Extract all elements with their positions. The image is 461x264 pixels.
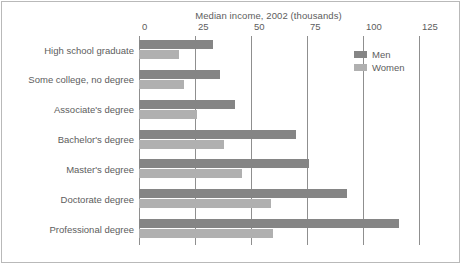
category-label: Bachelor's degree bbox=[0, 134, 134, 145]
legend-swatch-men bbox=[354, 51, 367, 58]
x-tick-label-75: 75 bbox=[307, 21, 321, 32]
gridline-125 bbox=[419, 36, 420, 245]
x-tick-label-0: 0 bbox=[139, 21, 147, 32]
category-axis-labels: High school graduateSome college, no deg… bbox=[0, 36, 134, 245]
legend-swatch-women bbox=[354, 64, 367, 71]
legend-label: Women bbox=[372, 62, 405, 73]
bar-men bbox=[139, 70, 220, 79]
category-label: Professional degree bbox=[0, 224, 134, 235]
legend-label: Men bbox=[372, 49, 390, 60]
bar-women bbox=[139, 229, 273, 238]
legend-item: Women bbox=[354, 61, 405, 74]
bar-women bbox=[139, 140, 224, 149]
category-label: Master's degree bbox=[0, 164, 134, 175]
category-label: High school graduate bbox=[0, 45, 134, 56]
bar-men bbox=[139, 189, 347, 198]
x-tick-label-25: 25 bbox=[195, 21, 209, 32]
category-label: Some college, no degree bbox=[0, 74, 134, 85]
x-tick-label-100: 100 bbox=[363, 21, 382, 32]
category-label: Doctorate degree bbox=[0, 194, 134, 205]
bar-women bbox=[139, 110, 197, 119]
bar-men bbox=[139, 159, 309, 168]
x-tick-label-50: 50 bbox=[251, 21, 265, 32]
bar-women bbox=[139, 80, 184, 89]
gridline-75 bbox=[307, 36, 308, 245]
bar-men bbox=[139, 40, 213, 49]
legend: MenWomen bbox=[354, 48, 405, 74]
bar-women bbox=[139, 169, 242, 178]
bar-women bbox=[139, 50, 179, 59]
chart-figure: Median income, 2002 (thousands) High sch… bbox=[0, 0, 461, 264]
gridline-50 bbox=[251, 36, 252, 245]
legend-item: Men bbox=[354, 48, 405, 61]
category-label: Associate's degree bbox=[0, 104, 134, 115]
bar-women bbox=[139, 199, 271, 208]
chart-title: Median income, 2002 (thousands) bbox=[38, 10, 461, 21]
bar-men bbox=[139, 100, 235, 109]
bar-men bbox=[139, 219, 399, 228]
bar-men bbox=[139, 130, 296, 139]
x-tick-label-125: 125 bbox=[419, 21, 438, 32]
